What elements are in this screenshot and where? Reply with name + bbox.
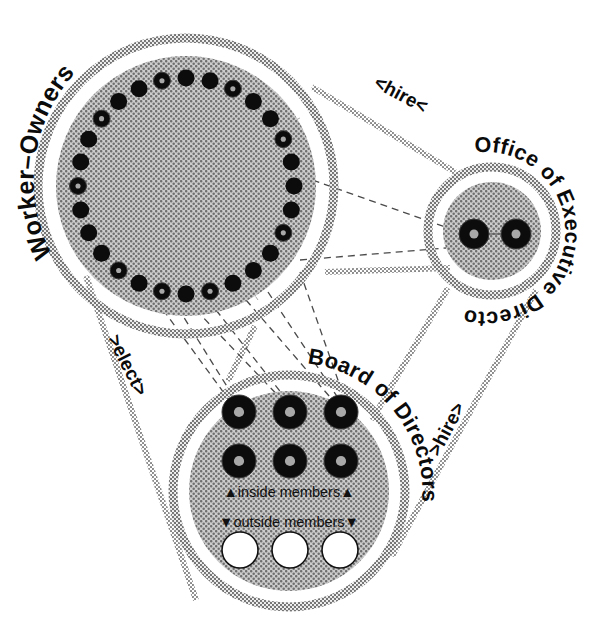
- board-outside-members-label: ▼outside members▼: [219, 514, 359, 530]
- board-inside-members-label: ▲inside members▲: [223, 484, 354, 500]
- diagram-canvas: Worker–Owners Office of Executive Direct…: [0, 0, 606, 626]
- edge-label-hire-executives: <hire<: [371, 72, 431, 117]
- label-layer: Worker–Owners Office of Executive Direct…: [0, 0, 606, 626]
- edge-label-hire-board: >hire>: [424, 399, 469, 459]
- edge-label-elect-board: >elect>: [104, 331, 152, 399]
- label-board-of-directors: Board of Directors: [306, 344, 442, 503]
- label-office-of-executive-directors: Office of Executive Directors: [0, 0, 584, 331]
- label-worker-owners: Worker–Owners: [11, 58, 79, 264]
